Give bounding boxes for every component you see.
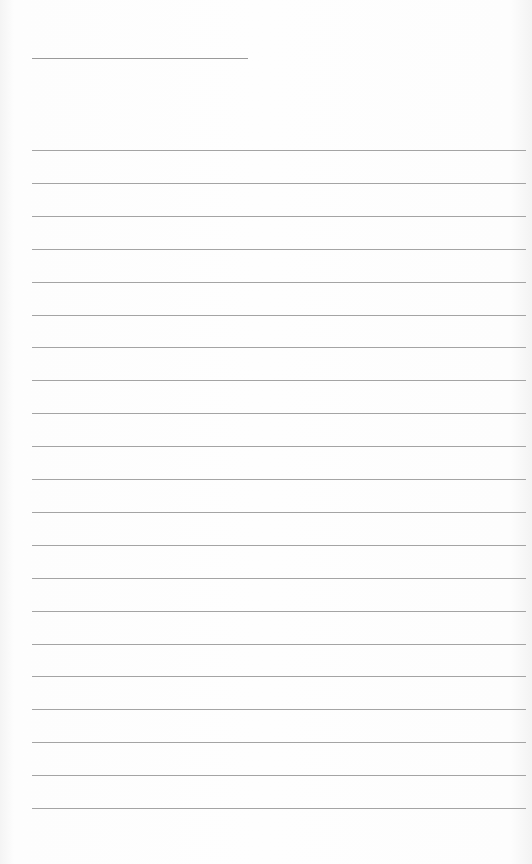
writing-line — [32, 347, 526, 348]
lined-paper-page — [0, 0, 532, 864]
writing-line — [32, 611, 526, 612]
writing-line — [32, 380, 526, 381]
writing-line — [32, 775, 526, 776]
writing-line — [32, 742, 526, 743]
writing-line — [32, 808, 526, 809]
writing-line — [32, 413, 526, 414]
writing-line — [32, 150, 526, 151]
writing-line — [32, 249, 526, 250]
writing-line — [32, 545, 526, 546]
writing-line — [32, 512, 526, 513]
writing-line — [32, 315, 526, 316]
writing-line — [32, 644, 526, 645]
writing-line — [32, 578, 526, 579]
writing-line — [32, 709, 526, 710]
writing-line — [32, 282, 526, 283]
writing-line — [32, 479, 526, 480]
writing-line — [32, 676, 526, 677]
writing-line — [32, 216, 526, 217]
writing-line — [32, 183, 526, 184]
title-writing-line — [32, 58, 248, 59]
writing-line — [32, 446, 526, 447]
